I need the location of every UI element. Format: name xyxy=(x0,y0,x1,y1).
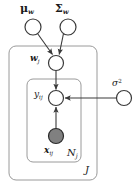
label-mu-w: μw xyxy=(20,3,34,14)
label-w-j-symbol: w xyxy=(30,53,38,63)
node-y-ij[interactable] xyxy=(49,91,64,106)
label-plate-inner-nj: Nj xyxy=(67,148,78,158)
plate-diagram-figure: μw Σw wj yij xij σ2 Nj J xyxy=(0,0,136,189)
label-plate-inner-symbol: N xyxy=(67,147,76,158)
edge-sigmaw-to-wj xyxy=(59,34,63,55)
label-plate-outer-j: J xyxy=(85,165,89,175)
label-w-j-subscript: j xyxy=(38,58,40,64)
label-mu-w-subscript: w xyxy=(28,8,34,16)
node-mu-w[interactable] xyxy=(25,19,41,35)
label-sigma-squared-exponent: 2 xyxy=(118,78,122,84)
label-plate-outer-symbol: J xyxy=(85,164,89,175)
label-sigma-w-subscript: w xyxy=(63,8,69,16)
node-sigma-w[interactable] xyxy=(60,19,76,35)
label-x-ij: xij xyxy=(44,146,53,155)
node-sigma-squared[interactable] xyxy=(117,91,132,106)
label-w-j: wj xyxy=(30,54,39,63)
label-sigma-w: Σw xyxy=(55,3,69,14)
label-y-ij: yij xyxy=(34,90,43,99)
label-y-ij-subscript: ij xyxy=(39,94,43,100)
label-sigma-squared: σ2 xyxy=(112,79,122,88)
node-x-ij-observed[interactable] xyxy=(49,129,64,144)
label-mu-w-symbol: μ xyxy=(20,2,28,15)
diagram-canvas xyxy=(0,0,136,189)
label-sigma-w-symbol: Σ xyxy=(55,2,63,15)
label-x-ij-subscript: ij xyxy=(49,150,53,156)
edge-muw-to-wj xyxy=(38,34,53,55)
node-w-j[interactable] xyxy=(49,56,64,71)
label-plate-inner-subscript: j xyxy=(76,152,78,159)
